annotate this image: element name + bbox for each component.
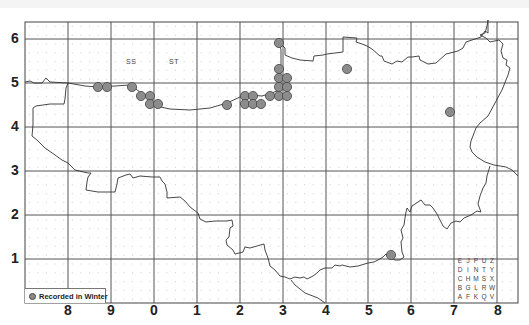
record-dot <box>274 64 283 73</box>
tetrad-letter: R <box>480 284 488 292</box>
tetrad-letter: U <box>480 257 488 265</box>
y-axis-label: 2 <box>8 206 22 222</box>
record-dot <box>127 82 136 91</box>
x-axis-label: 6 <box>401 302 421 318</box>
tetrad-letter: J <box>464 257 472 265</box>
tetrad-letter: W <box>488 284 496 292</box>
tetrad-letter: A <box>456 293 464 301</box>
tetrad-letter: D <box>456 266 464 274</box>
record-dot <box>256 99 265 108</box>
y-axis-label: 1 <box>8 250 22 266</box>
tetrad-letter: P <box>472 257 480 265</box>
tetrad-letter-key: EJPUZDINTYCHMSXBGLRWAFKQV <box>456 257 496 301</box>
tetrad-letter: I <box>464 266 472 274</box>
x-axis-label: 8 <box>58 302 78 318</box>
tetrad-letter: B <box>456 284 464 292</box>
x-axis-label: 7 <box>444 302 464 318</box>
tetrad-letter: N <box>472 266 480 274</box>
tetrad-letter: K <box>472 293 480 301</box>
x-axis-label: 9 <box>101 302 121 318</box>
y-axis-label: 3 <box>8 162 22 178</box>
tetrad-letter: C <box>456 275 464 283</box>
x-axis-label: 2 <box>230 302 250 318</box>
record-dot <box>102 82 111 91</box>
legend: Recorded in Winter <box>25 288 106 303</box>
record-dot <box>445 107 454 116</box>
tetrad-letter: H <box>464 275 472 283</box>
tetrad-letter: S <box>480 275 488 283</box>
grid-square-label: ST <box>169 58 179 65</box>
tetrad-letter: X <box>488 275 496 283</box>
x-axis-label: 8 <box>488 302 508 318</box>
x-axis-label: 1 <box>187 302 207 318</box>
distribution-map <box>0 0 529 325</box>
grid-square-label: SS <box>126 58 136 65</box>
record-dot <box>386 250 395 259</box>
x-axis-label: 0 <box>144 302 164 318</box>
record-dot <box>274 38 283 47</box>
legend-record-dot-icon <box>29 293 36 300</box>
tetrad-letter: Z <box>488 257 496 265</box>
tetrad-letter: Q <box>480 293 488 301</box>
record-dot <box>136 91 145 100</box>
tetrad-letter: E <box>456 257 464 265</box>
record-dot <box>342 64 351 73</box>
y-axis-label: 6 <box>8 30 22 46</box>
record-dot <box>93 82 102 91</box>
record-dot <box>222 100 231 109</box>
tetrad-letter: L <box>472 284 480 292</box>
x-axis-label: 3 <box>273 302 293 318</box>
tetrad-letter: F <box>464 293 472 301</box>
record-dot <box>282 91 291 100</box>
tetrad-letter: G <box>464 284 472 292</box>
record-dot <box>282 82 291 91</box>
record-dot <box>153 99 162 108</box>
map-background <box>25 22 518 303</box>
record-dot <box>282 73 291 82</box>
legend-label: Recorded in Winter <box>39 292 108 301</box>
y-axis-label: 4 <box>8 118 22 134</box>
tetrad-letter: T <box>480 266 488 274</box>
x-axis-label: 4 <box>316 302 336 318</box>
x-axis-label: 5 <box>359 302 379 318</box>
tetrad-letter: V <box>488 293 496 301</box>
tetrad-letter: M <box>472 275 480 283</box>
y-axis-label: 5 <box>8 74 22 90</box>
record-dot <box>265 91 274 100</box>
tetrad-letter: Y <box>488 266 496 274</box>
